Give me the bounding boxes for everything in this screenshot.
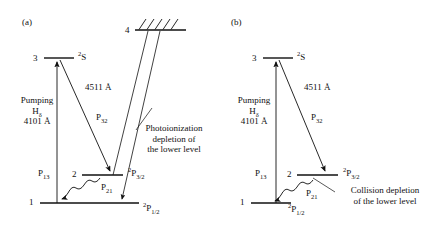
panel-b: (b) 3 2S Pumping Hδ 4101 Å 4511 Å P13 P3… [213,0,425,228]
panel-b-term-p12: 2P1/2 [288,204,305,215]
panel-b-rate-p32: P32 [311,112,323,123]
panel-b-pumping-note: Pumping Hδ 4101 Å [225,95,283,127]
panel-a-term-2s: 2S [78,52,86,63]
panel-b-pumping-line1: Pumping [225,95,283,106]
panel-a-term-2s-letter: S [81,52,86,62]
panel-a-level-4-number: 4 [125,25,130,36]
panel-a-level-2-number: 2 [72,169,77,180]
panel-b-level-3-number: 3 [252,53,257,64]
panel-b-tag: (b) [231,17,242,28]
panel-b-rate-p13: P13 [255,168,267,179]
energy-level-diagram-figure: (a) 4 3 2S Pumping Hδ 4101 Å 4511 Å P13 … [0,0,425,228]
level-4-line [135,19,186,30]
panel-b-pumping-line2: Hδ [225,106,283,117]
panel-b-transition-4511-label: 4511 Å [304,82,330,93]
panel-a-term-p12: 2P1/2 [143,203,160,214]
panel-a-tag: (a) [22,17,32,28]
panel-a-pumping-line1: Pumping [8,95,66,106]
panel-a-level-1-number: 1 [29,197,34,208]
panel-a-note-line1: Photoionization [137,123,211,134]
panel-a-transition-4511-label: 4511 Å [85,82,111,93]
relaxation-arrow-p21 [62,178,100,199]
panel-a-pumping-line2: Hδ [8,106,66,117]
panel-a-photoionization-note: Photoionization depletion of the lower l… [137,123,211,155]
panel-b-note-line1: Collision depletion [344,185,425,196]
panel-a-rate-p32: P32 [96,112,108,123]
panel-a: (a) 4 3 2S Pumping Hδ 4101 Å 4511 Å P13 … [0,0,212,228]
panel-a-rate-p13: P13 [38,168,50,179]
panel-b-collision-note: Collision depletion of the lower level [344,185,425,206]
panel-b-term-p32: 2P3/2 [343,168,360,179]
panel-a-term-p32: 2P3/2 [128,168,145,179]
panel-b-pumping-line3: 4101 Å [225,116,283,127]
panel-a-level-3-number: 3 [33,53,38,64]
panel-a-pumping-note: Pumping Hδ 4101 Å [8,95,66,127]
panel-b-rate-p21: P21 [306,188,318,199]
panel-b-note-line2: of the lower level [344,196,425,207]
panel-a-rate-p21: P21 [101,182,113,193]
panel-a-note-line3: the lower level [137,144,211,155]
panel-b-term-2s: 2S [297,52,305,63]
panel-b-level-2-number: 2 [287,169,292,180]
panel-a-pumping-line3: 4101 Å [8,116,66,127]
panel-b-level-1-number: 1 [240,197,245,208]
panel-a-note-line2: depletion of [137,134,211,145]
